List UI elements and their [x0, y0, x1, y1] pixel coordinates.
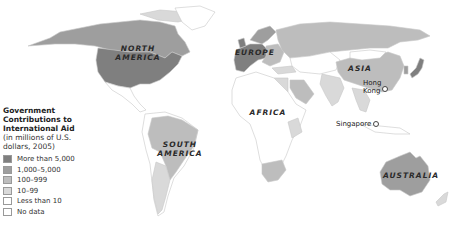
- uk-shape: [238, 38, 246, 48]
- label-hong-kong: Hong Kong: [363, 79, 381, 95]
- legend-item: No data: [3, 207, 111, 218]
- legend-label: No data: [17, 208, 45, 216]
- legend-label: Less than 10: [17, 197, 62, 205]
- india-shape: [320, 74, 344, 106]
- south-africa-shape: [262, 160, 286, 182]
- scandinavia-shape: [250, 26, 276, 44]
- label-europe: EUROPE: [230, 48, 280, 57]
- legend-swatch: [3, 155, 12, 163]
- label-asia: ASIA: [343, 64, 377, 73]
- legend-swatch: [3, 176, 12, 184]
- singapore-marker-icon: [373, 121, 379, 127]
- turkey-shape: [272, 66, 296, 74]
- label-africa: AFRICA: [246, 108, 290, 117]
- legend-title-line: Contributions to: [3, 115, 111, 124]
- korea-shape: [404, 66, 408, 74]
- legend-swatch: [3, 197, 12, 205]
- label-north-america: NORTH AMERICA: [108, 44, 168, 62]
- label-south-america: SOUTH AMERICA: [150, 140, 210, 158]
- legend: Government Contributions to Internationa…: [3, 106, 111, 217]
- label-line: AMERICA: [108, 53, 168, 62]
- legend-title-line: Government: [3, 106, 111, 115]
- legend-item: 1,000–5,000: [3, 165, 111, 176]
- legend-swatch: [3, 208, 12, 216]
- legend-label: 10–99: [17, 187, 38, 195]
- new-zealand-shape: [436, 192, 448, 206]
- legend-item: 100–999: [3, 175, 111, 186]
- legend-item: Less than 10: [3, 196, 111, 207]
- japan-shape: [410, 58, 424, 78]
- legend-items: More than 5,000 1,000–5,000 100–999 10–9…: [3, 154, 111, 217]
- label-australia: AUSTRALIA: [376, 171, 446, 180]
- hong-kong-marker-icon: [382, 86, 388, 92]
- legend-swatch: [3, 166, 12, 174]
- label-line: Kong: [363, 87, 381, 95]
- legend-subtitle: (in millions of U.S. dollars, 2005): [3, 133, 111, 151]
- legend-label: 1,000–5,000: [17, 166, 61, 174]
- legend-item: 10–99: [3, 186, 111, 197]
- label-singapore: Singapore: [336, 120, 371, 128]
- legend-swatch: [3, 187, 12, 195]
- legend-title-line: International Aid: [3, 124, 111, 133]
- legend-subtitle-line: (in millions of U.S.: [3, 133, 111, 142]
- label-line: NORTH: [108, 44, 168, 53]
- argentina-shape: [152, 162, 170, 214]
- legend-subtitle-line: dollars, 2005): [3, 142, 111, 151]
- legend-label: More than 5,000: [17, 155, 75, 163]
- label-line: AMERICA: [150, 149, 210, 158]
- label-line: SOUTH: [150, 140, 210, 149]
- greenland-shape: [175, 6, 215, 30]
- legend-title: Government Contributions to Internationa…: [3, 106, 111, 133]
- label-line: Hong: [363, 79, 381, 87]
- legend-label: 100–999: [17, 176, 47, 184]
- legend-item: More than 5,000: [3, 154, 111, 165]
